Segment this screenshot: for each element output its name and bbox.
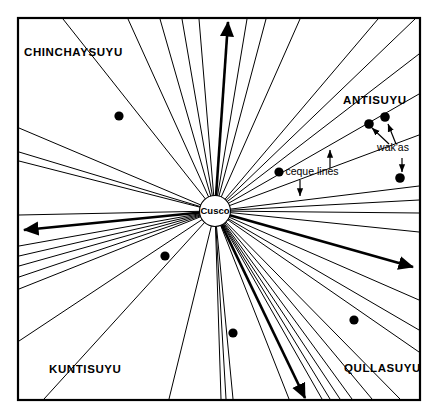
wakas-dot — [160, 251, 169, 260]
quadrant-label-antisuyu: ANTISUYU — [343, 94, 407, 106]
quadrant-label-kuntisuyu: KUNTISUYU — [49, 363, 122, 375]
wakas-dot — [349, 315, 358, 324]
diagram-canvas: Cusco CHINCHAYSUYU ANTISUYU KUNTISUYU QU… — [0, 0, 435, 416]
quadrant-label-qullasuyu: QULLASUYU — [344, 362, 421, 374]
wakas-dot — [395, 173, 405, 183]
wakas-dot — [380, 112, 390, 122]
ceque-system-svg: Cusco CHINCHAYSUYU ANTISUYU KUNTISUYU QU… — [0, 0, 435, 416]
wakas-dot — [274, 167, 283, 176]
wakas-dot — [364, 119, 374, 129]
annotation-label-ceque-lines: ceque lines — [285, 165, 338, 177]
cusco-center-label: Cusco — [200, 205, 229, 216]
wakas-dot — [228, 328, 237, 337]
quadrant-label-chinchaysuyu: CHINCHAYSUYU — [24, 46, 123, 58]
annotation-label-wakas: wak'as — [376, 141, 409, 153]
wakas-dot — [114, 111, 123, 120]
